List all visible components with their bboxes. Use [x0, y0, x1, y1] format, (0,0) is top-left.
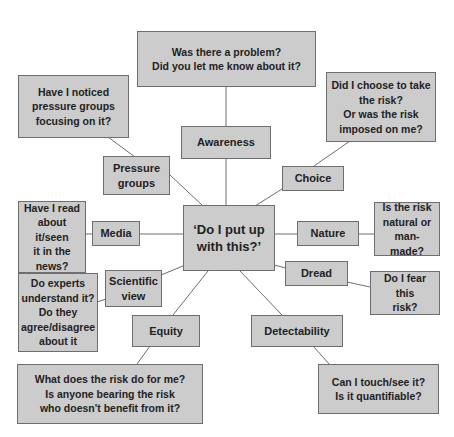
risk-perception-diagram: ‘Do I put up with this?’ Was there a pro…	[0, 0, 454, 437]
center-question-text: ‘Do I put up with this?’	[193, 221, 264, 255]
dread-category-box: Dread	[285, 261, 348, 286]
equity-question-box: What does the risk do for me? Is anyone …	[17, 364, 203, 424]
dread-question-box: Do I fear this risk?	[370, 271, 440, 315]
media-question-text: Have I read about it/seen it in the news…	[22, 201, 82, 274]
scientific-view-question-box: Do experts understand it? Do they agree/…	[18, 273, 98, 352]
choice-question-box: Did I choose to take the risk? Or was th…	[326, 72, 436, 142]
center-question-box: ‘Do I put up with this?’	[183, 205, 275, 271]
pressure-groups-question-text: Have I noticed pressure groups focusing …	[32, 85, 115, 129]
nature-category-label: Nature	[311, 226, 346, 241]
nature-question-text: Is the risk natural or man-made?	[378, 200, 436, 258]
dread-category-label: Dread	[301, 266, 332, 281]
detectability-question-text: Can I touch/see it? Is it quantifiable?	[332, 375, 425, 404]
equity-category-box: Equity	[132, 315, 200, 347]
media-question-box: Have I read about it/seen it in the news…	[18, 201, 86, 273]
choice-category-box: Choice	[282, 166, 344, 191]
pressure-groups-category-label: Pressure groups	[113, 161, 160, 190]
pressure-groups-category-box: Pressure groups	[103, 156, 170, 195]
nature-question-box: Is the risk natural or man-made?	[374, 202, 440, 256]
detectability-question-box: Can I touch/see it? Is it quantifiable?	[318, 364, 439, 414]
scientific-view-question-text: Do experts understand it? Do they agree/…	[21, 276, 95, 349]
scientific-view-category-box: Scientific view	[105, 270, 162, 307]
awareness-category-box: Awareness	[181, 126, 271, 159]
detectability-category-label: Detectability	[264, 324, 329, 339]
nature-category-box: Nature	[297, 221, 359, 246]
awareness-category-label: Awareness	[197, 135, 255, 150]
dread-question-text: Do I fear this risk?	[374, 271, 436, 315]
media-category-label: Media	[100, 226, 131, 241]
awareness-question-text: Was there a problem? Did you let me know…	[152, 45, 301, 74]
choice-question-text: Did I choose to take the risk? Or was th…	[331, 78, 430, 136]
equity-question-text: What does the risk do for me? Is anyone …	[35, 372, 186, 416]
detectability-category-box: Detectability	[251, 315, 343, 347]
scientific-view-category-label: Scientific view	[109, 274, 158, 303]
pressure-groups-question-box: Have I noticed pressure groups focusing …	[18, 75, 129, 138]
awareness-question-box: Was there a problem? Did you let me know…	[137, 31, 316, 87]
equity-category-label: Equity	[149, 324, 183, 339]
choice-category-label: Choice	[295, 171, 332, 186]
media-category-box: Media	[92, 221, 140, 246]
